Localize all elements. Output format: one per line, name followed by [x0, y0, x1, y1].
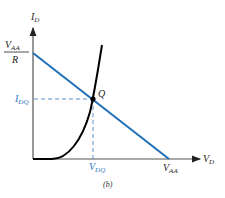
q-point-marker — [90, 96, 95, 101]
i-dq-label: IDQ — [14, 93, 28, 106]
y-intercept-numerator: VAA — [5, 39, 20, 52]
q-point-label: Q — [98, 88, 106, 99]
load-line-diagram: ID VAA R IDQ Q VDQ VAA VD (b) — [0, 0, 225, 198]
v-dq-label: VDQ — [89, 161, 105, 174]
y-intercept-denominator: R — [11, 54, 18, 65]
x-axis-label: VD — [203, 153, 214, 166]
y-axis-label: ID — [30, 11, 39, 24]
figure-caption: (b) — [103, 180, 113, 189]
x-intercept-label: VAA — [163, 162, 178, 175]
load-line — [33, 53, 169, 159]
